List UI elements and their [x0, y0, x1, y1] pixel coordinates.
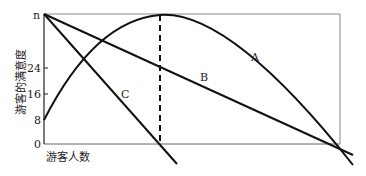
tick-label-24: 24 — [27, 62, 41, 75]
curve-a — [44, 15, 353, 165]
line-b — [44, 14, 353, 155]
satisfaction-chart: n 24 16 8 0 游客的满意度 游客人数 A B C — [0, 0, 366, 176]
curve-label-c: C — [121, 88, 129, 101]
tick-label-16: 16 — [27, 88, 41, 101]
tick-label-0: 0 — [34, 138, 41, 151]
y-axis-title: 游客的满意度 — [14, 49, 28, 115]
line-c — [44, 14, 177, 164]
tick-label-n: n — [33, 9, 40, 22]
curve-label-a: A — [250, 51, 260, 64]
tick-label-8: 8 — [34, 114, 41, 127]
curve-label-b: B — [200, 71, 208, 84]
x-axis-title: 游客人数 — [46, 150, 90, 164]
